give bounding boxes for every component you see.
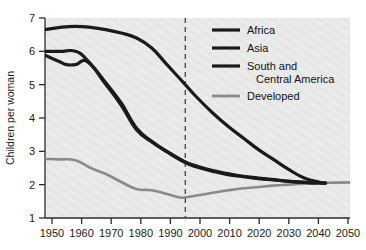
y-tick-label-3: 3 [29,145,35,157]
y-tick-label-2: 2 [29,179,35,191]
x-tick-label-1950: 1950 [40,227,64,239]
x-tick-label-1980: 1980 [129,227,153,239]
y-tick-label-5: 5 [29,79,35,91]
x-tick-label-1960: 1960 [69,227,93,239]
x-tick-label-1970: 1970 [99,227,123,239]
y-tick-label-6: 6 [29,45,35,57]
y-tick-label-4: 4 [29,112,35,124]
chart-figure: 1 2 3 4 5 6 7 Children per woman [0,0,366,250]
legend-label-south-and: South and [247,60,297,72]
y-tick-label-7: 7 [29,12,35,24]
x-tick-label-2000: 2000 [188,227,212,239]
x-tick-label-2010: 2010 [217,227,241,239]
legend-label-asia: Asia [247,42,269,54]
legend-label-central-america: Central America [256,73,335,85]
plot-background [45,18,350,218]
x-tick-label-2030: 2030 [277,227,301,239]
y-axis-title: Children per woman [4,71,16,165]
legend-label-developed: Developed [247,90,300,102]
x-tick-label-1990: 1990 [158,227,182,239]
legend-label-africa: Africa [247,24,276,36]
y-tick-label-1: 1 [29,212,35,224]
x-tick-label-2040: 2040 [306,227,330,239]
x-tick-label-2020: 2020 [247,227,271,239]
fertility-line-chart: 1 2 3 4 5 6 7 Children per woman [0,0,366,250]
x-tick-label-2050: 2050 [336,227,360,239]
